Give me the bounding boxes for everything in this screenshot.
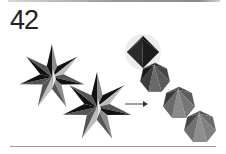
stars-group — [20, 44, 131, 139]
figure-illustration — [0, 0, 226, 154]
polyhedron-4 — [184, 111, 215, 141]
star-1 — [20, 44, 84, 107]
polyhedra-group — [125, 34, 216, 141]
polyhedron-3 — [163, 87, 194, 117]
arrow-icon — [125, 101, 148, 107]
bottom-rule — [10, 146, 216, 147]
